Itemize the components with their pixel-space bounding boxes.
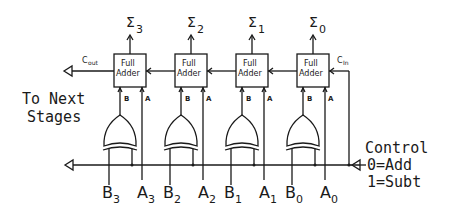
b3-label: B (102, 183, 113, 202)
xor-gate-1-icon (225, 115, 259, 150)
a0-label: A (320, 183, 331, 202)
a3-label: A (137, 183, 148, 202)
fa1-pin-a: A (267, 95, 273, 103)
xor-gate-0-icon (286, 115, 320, 150)
a1-subscript: 1 (270, 193, 277, 206)
adder-subtractor-diagram: Σ 3 Full Adder B A B 3 A 3 Σ 2 Full (0, 0, 455, 215)
b1-label: B (224, 183, 235, 202)
b0-label: B (285, 183, 296, 202)
fa1-pin-b: B (246, 95, 251, 103)
a1-label: A (259, 183, 270, 202)
full-adder-3-label-line1: Full (121, 59, 135, 68)
fa0-pin-a: A (328, 95, 334, 103)
full-adder-2-label-line1: Full (182, 59, 196, 68)
control-out-arrow-icon (65, 160, 73, 170)
carry-out-subscript: out (88, 59, 98, 66)
to-next-stages-label-line1: To Next (22, 90, 85, 108)
fa2-pin-b: B (185, 95, 190, 103)
b2-subscript: 2 (174, 193, 181, 206)
control-label: Control (365, 139, 428, 157)
fa0-pin-b: B (307, 95, 312, 103)
b0-subscript: 0 (296, 193, 303, 206)
fa3-pin-a: A (145, 95, 151, 103)
full-adder-1-label-line1: Full (243, 59, 257, 68)
fa2-pin-a: A (206, 95, 212, 103)
sum-2-symbol: Σ (187, 14, 196, 30)
b1-subscript: 1 (235, 193, 242, 206)
a3-subscript: 3 (148, 193, 155, 206)
stage-0: Σ 0 Full Adder B A B 0 A 0 (285, 14, 338, 206)
to-next-stages-label-line2: Stages (27, 108, 81, 126)
full-adder-0-label-line2: Adder (299, 69, 323, 78)
fa3-pin-b: B (124, 95, 129, 103)
stage-1: Σ 1 Full Adder B A B 1 A 1 (224, 14, 277, 206)
b3-subscript: 3 (113, 193, 120, 206)
carry-in-subscript: In (343, 59, 349, 66)
control-bus (65, 160, 366, 170)
carry-out-arrow-icon (64, 66, 72, 76)
a0-subscript: 0 (331, 193, 338, 206)
sum-1-subscript: 1 (258, 23, 265, 36)
sum-0-subscript: 0 (319, 23, 326, 36)
sum-2-subscript: 2 (197, 23, 204, 36)
xor-gate-3-icon (103, 115, 137, 150)
sum-3-symbol: Σ (126, 14, 135, 30)
a2-subscript: 2 (209, 193, 216, 206)
control-add-label: 0=Add (367, 156, 412, 174)
control-subt-label: 1=Subt (367, 173, 421, 191)
xor-gate-2-icon (164, 115, 198, 150)
b2-label: B (163, 183, 174, 202)
full-adder-2-label-line2: Adder (177, 69, 201, 78)
full-adder-0-label-line1: Full (304, 59, 318, 68)
stage-2: Σ 2 Full Adder B A B 2 A 2 (163, 14, 216, 206)
sum-0-symbol: Σ (309, 14, 318, 30)
sum-3-subscript: 3 (136, 23, 143, 36)
a2-label: A (198, 183, 209, 202)
full-adder-3-label-line2: Adder (116, 69, 140, 78)
sum-1-symbol: Σ (248, 14, 257, 30)
full-adder-1-label-line2: Adder (238, 69, 262, 78)
stage-3: Σ 3 Full Adder B A B 3 A 3 (102, 14, 155, 206)
